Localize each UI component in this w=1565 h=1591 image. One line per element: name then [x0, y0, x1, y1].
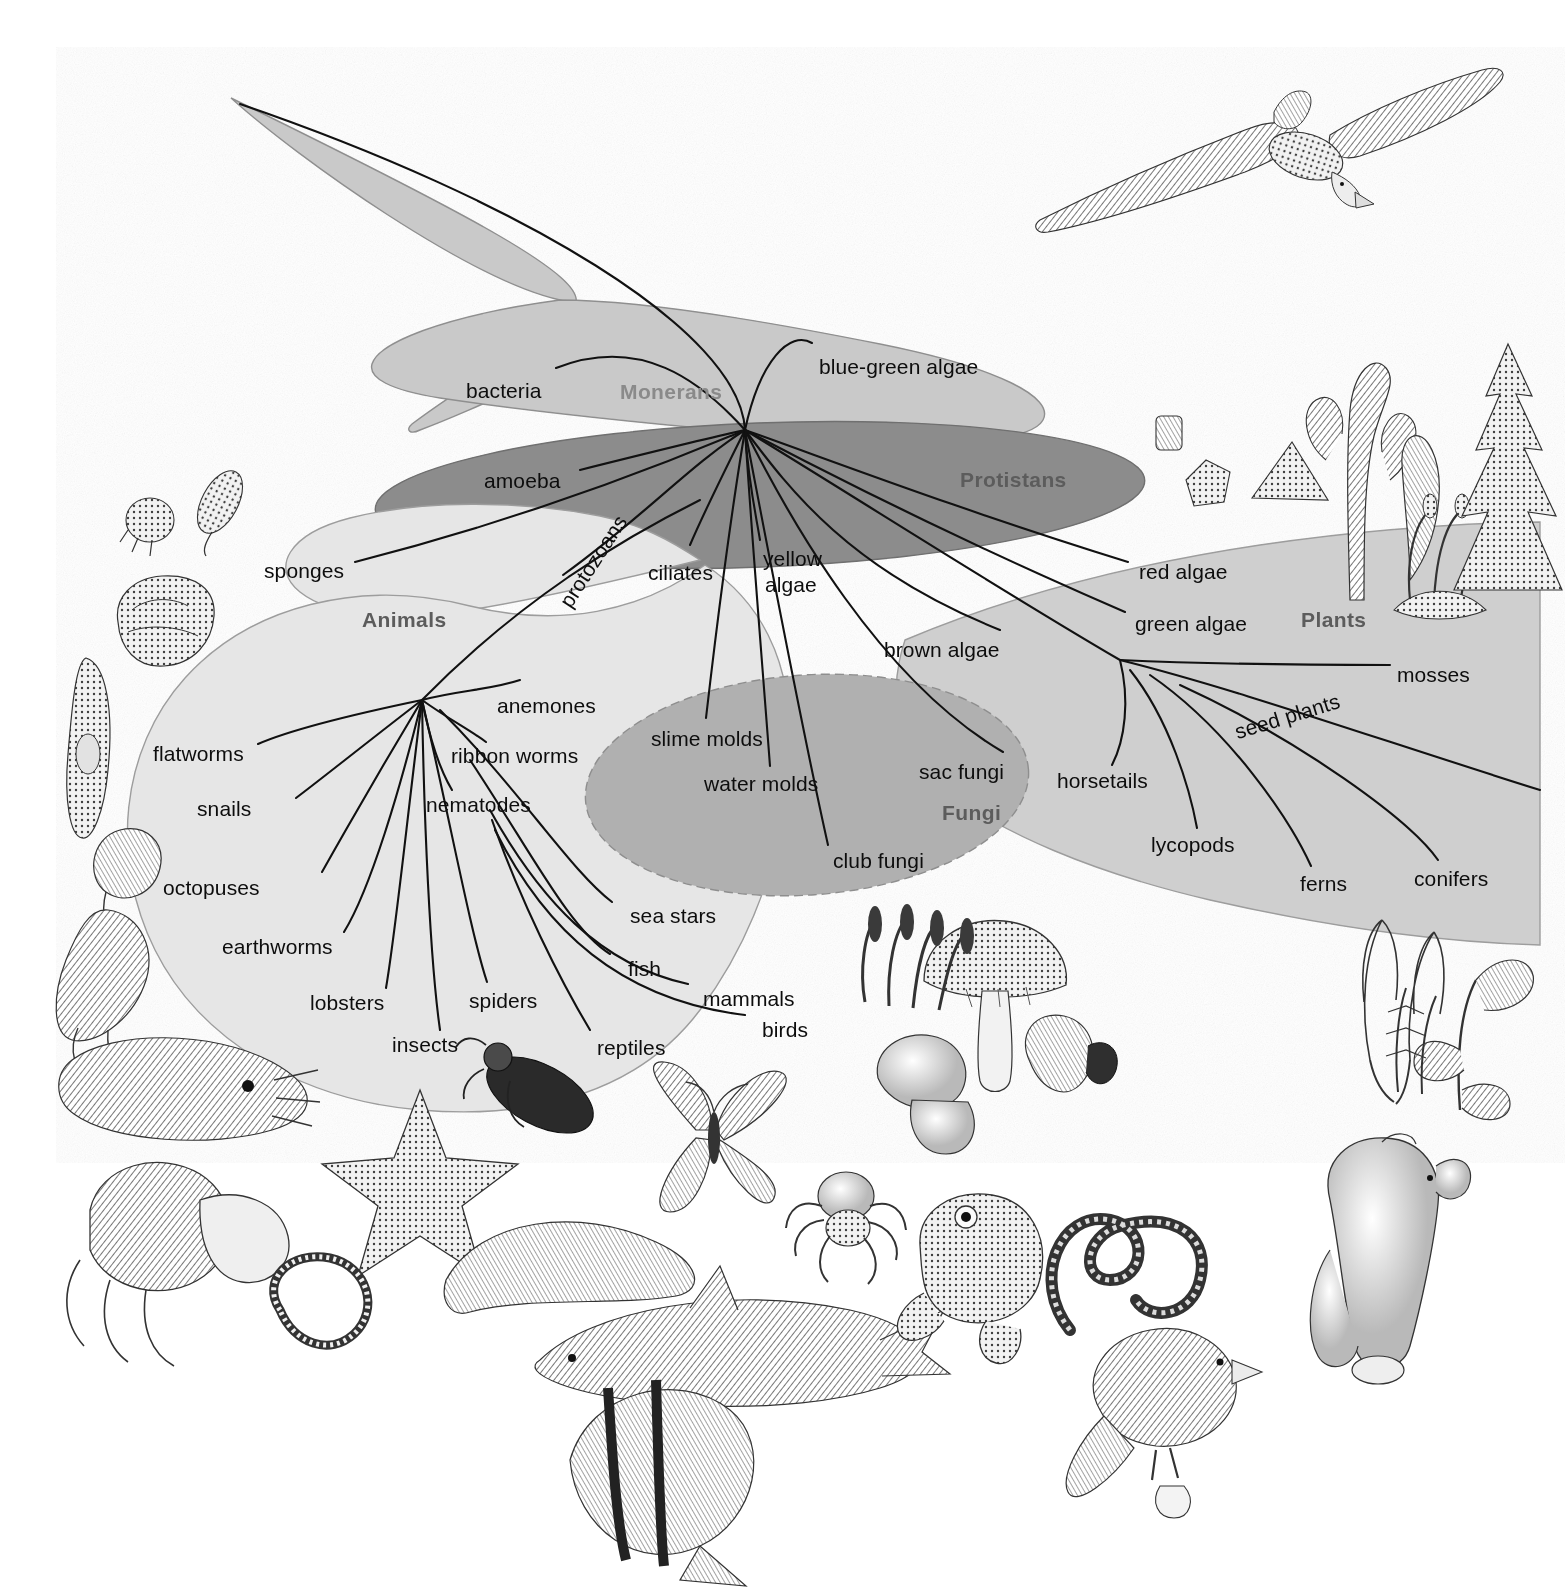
- kingdom-label-animals: Animals: [362, 608, 447, 632]
- polar-bear-illustration: [1310, 1134, 1470, 1384]
- label-horsetails: horsetails: [1057, 769, 1148, 793]
- hermit-crab-illustration: [67, 1162, 289, 1366]
- label-ribbon-worms: ribbon worms: [451, 744, 578, 768]
- label-club-fungi: club fungi: [833, 849, 924, 873]
- label-conifers: conifers: [1414, 867, 1488, 891]
- label-lobsters: lobsters: [310, 991, 384, 1015]
- label-sac-fungi: sac fungi: [919, 760, 1004, 784]
- label-red-algae: red algae: [1139, 560, 1227, 584]
- label-spiders: spiders: [469, 989, 537, 1013]
- label-reptiles: reptiles: [597, 1036, 666, 1060]
- cup-fungus-illustration: [1025, 1015, 1117, 1092]
- label-earthworms: earthworms: [222, 935, 333, 959]
- label-sponges: sponges: [264, 559, 344, 583]
- label-ciliates: ciliates: [648, 561, 713, 585]
- figure-canvas: Monerans Protistans Animals Fungi Plants…: [0, 0, 1565, 1591]
- diatom-illustration: [1156, 416, 1328, 506]
- snake-illustration: [1051, 1219, 1201, 1330]
- label-octopuses: octopuses: [163, 876, 260, 900]
- butterfly-fish-illustration: [570, 1380, 754, 1586]
- kingdom-label-plants: Plants: [1301, 608, 1366, 632]
- earthworm-illustration: [274, 1257, 368, 1345]
- label-snails: snails: [197, 797, 251, 821]
- label-water-molds: water molds: [704, 772, 818, 796]
- kingdom-label-monerans: Monerans: [620, 380, 722, 404]
- kingdom-label-fungi: Fungi: [942, 801, 1001, 825]
- nematode-illustration: [444, 1222, 694, 1313]
- label-nematodes: nematodes: [426, 793, 531, 817]
- label-bacteria: bacteria: [466, 379, 542, 403]
- label-slime-molds: slime molds: [651, 727, 763, 751]
- frog-illustration: [897, 1194, 1042, 1364]
- label-birds: birds: [762, 1018, 808, 1042]
- label-mammals: mammals: [703, 987, 795, 1011]
- label-fish: fish: [628, 957, 661, 981]
- conifer-illustration: [1454, 344, 1562, 590]
- label-green-algae: green algae: [1135, 612, 1247, 636]
- label-yellow-algae-line2: algae: [765, 573, 817, 597]
- label-anemones: anemones: [497, 694, 596, 718]
- flowering-plant-illustration: [1414, 960, 1533, 1120]
- flatworm-illustration: [67, 658, 110, 838]
- spider-illustration: [786, 1172, 906, 1284]
- bracket-fungus-illustration: [877, 1035, 974, 1154]
- label-amoeba: amoeba: [484, 469, 561, 493]
- label-brown-algae: brown algae: [884, 638, 1000, 662]
- label-mosses: mosses: [1397, 663, 1470, 687]
- label-blue-green-algae: blue-green algae: [819, 355, 978, 379]
- kingdom-label-protistans: Protistans: [960, 468, 1067, 492]
- label-lycopods: lycopods: [1151, 833, 1235, 857]
- label-sea-stars: sea stars: [630, 904, 716, 928]
- finch-illustration: [1066, 1329, 1262, 1518]
- protozoans-illustration: [120, 464, 252, 556]
- albatross-illustration: [1036, 68, 1503, 232]
- butterfly-illustration: [654, 1062, 787, 1212]
- sponge-illustration: [117, 576, 214, 666]
- label-yellow-algae-line1: yellow: [763, 547, 822, 571]
- label-insects: insects: [392, 1033, 458, 1057]
- label-flatworms: flatworms: [153, 742, 244, 766]
- label-ferns: ferns: [1300, 872, 1347, 896]
